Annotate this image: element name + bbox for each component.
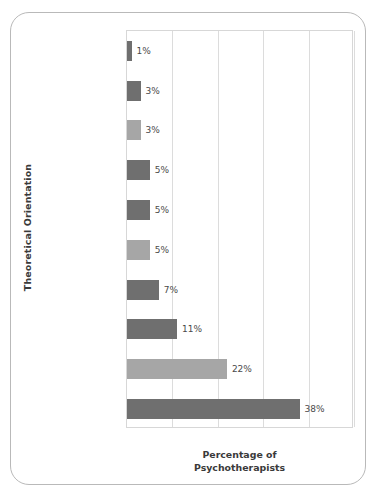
chart-figure: Theoretical Orientation 1%3%3%5%5%5%7%11… [0, 0, 376, 499]
bar-row: 7% [127, 270, 352, 310]
bar-eclectic [127, 399, 300, 419]
bar-value-label: 3% [141, 86, 160, 96]
bar-row: 5% [127, 150, 352, 190]
x-axis-title: Percentage ofPsychotherapists [126, 449, 353, 474]
bar-behavioral [127, 240, 150, 260]
x-axis-title-line: Percentage of [126, 449, 353, 462]
bar-family-systems [127, 280, 159, 300]
bar-value-label: 22% [227, 364, 252, 374]
bar-row: 11% [127, 310, 352, 350]
bar-row: 1% [127, 31, 352, 71]
gridline-50 [354, 31, 355, 427]
bar-existential [127, 200, 150, 220]
bar-value-label: 11% [177, 324, 202, 334]
bar-value-label: 5% [150, 205, 169, 215]
bar-row: 3% [127, 71, 352, 111]
bar-row: 3% [127, 111, 352, 151]
bar-row: 22% [127, 349, 352, 389]
bar-contemporary-psychodynamic [127, 359, 227, 379]
bar-other [127, 120, 141, 140]
x-axis-title-line: Psychotherapists [126, 462, 353, 475]
bar-value-label: 7% [159, 285, 178, 295]
bar-client-centered [127, 81, 141, 101]
bar-value-label: 38% [300, 404, 325, 414]
bar-freudian-psychodynamic [127, 319, 177, 339]
bar-value-label: 1% [132, 46, 151, 56]
bar-row: 5% [127, 230, 352, 270]
bar-cognitive [127, 160, 150, 180]
plot-area: 1%3%3%5%5%5%7%11%22%38% [126, 30, 353, 428]
bar-row: 5% [127, 190, 352, 230]
y-axis-title: Theoretical Orientation [22, 153, 33, 303]
bar-row: 38% [127, 389, 352, 429]
bar-value-label: 3% [141, 125, 160, 135]
bar-value-label: 5% [150, 245, 169, 255]
bar-value-label: 5% [150, 165, 169, 175]
